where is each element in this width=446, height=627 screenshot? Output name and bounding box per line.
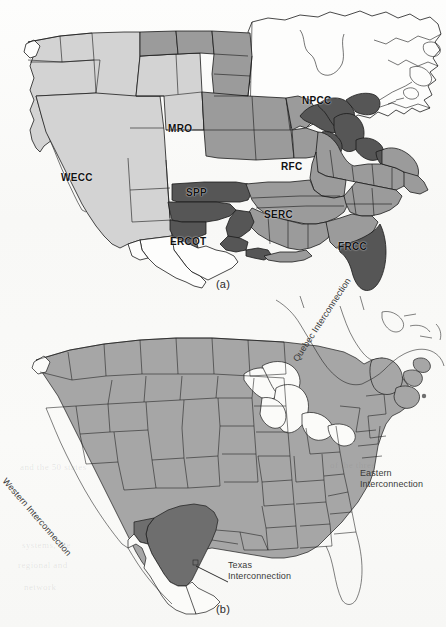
interconnections-map: .bst{stroke:#1a1a1a;stroke-width:0.7;str…	[0, 296, 446, 627]
caption-panel-a: (a)	[0, 278, 446, 290]
us-landmass	[32, 338, 412, 614]
caption-panel-b: (b)	[0, 603, 446, 615]
panel-b-interconnections: and the 50 states of the three systems, …	[0, 296, 446, 627]
panel-a-nerc-regions: .st{stroke:#1a1a1a;stroke-width:0.8;stro…	[0, 0, 446, 296]
nerc-regions-map: .st{stroke:#1a1a1a;stroke-width:0.8;stro…	[0, 0, 446, 296]
texas-leader-line	[196, 566, 228, 582]
figure-root: .st{stroke:#1a1a1a;stroke-width:0.8;stro…	[0, 0, 446, 627]
